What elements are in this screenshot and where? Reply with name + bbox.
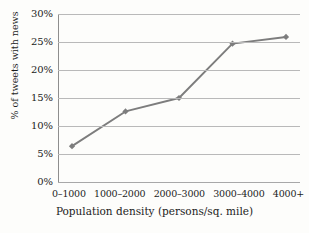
- series-polyline: [72, 37, 286, 146]
- gridline-0pct: [58, 182, 300, 183]
- gridline-20pct: [58, 70, 300, 71]
- x-axis-tick-labels: 0–10001000–20002000–30003000–40004000+: [52, 188, 304, 202]
- chart-figure: 0%5%10%15%20%25%30% % of tweets with new…: [0, 0, 309, 233]
- x-axis-tick-label: 4000+: [273, 188, 304, 199]
- data-point-marker: [283, 34, 289, 40]
- gridline-15pct: [58, 98, 300, 99]
- x-axis-tick-label: 1000–2000: [94, 188, 145, 199]
- x-axis-title: Population density (persons/sq. mile): [0, 205, 309, 217]
- x-axis-tick-label: 3000–4000: [213, 188, 264, 199]
- y-axis-tick-label: 0%: [1, 177, 53, 187]
- x-axis-tick-label: 0–1000: [52, 188, 86, 199]
- gridline-30pct: [58, 14, 300, 15]
- y-axis-title: % of tweets with news: [9, 6, 20, 126]
- y-axis-tick-label: 5%: [1, 149, 53, 159]
- plot-area: [58, 14, 300, 182]
- gridline-25pct: [58, 42, 300, 43]
- x-axis-tick-label: 2000–3000: [154, 188, 205, 199]
- gridline-5pct: [58, 154, 300, 155]
- gridline-10pct: [58, 126, 300, 127]
